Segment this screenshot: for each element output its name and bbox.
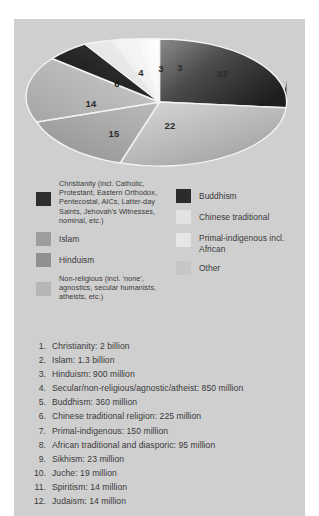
list-item-text: Spiritism: 14 million [52,480,300,494]
legend-swatch-hinduism [36,253,51,267]
list-item-text: Christianity: 2 billion [52,339,300,353]
list-item-text: Secular/non-religious/agnostic/atheist: … [52,381,300,395]
legend-label-other: Other [199,261,220,274]
legend-item-primal-indigenous[interactable]: Primal-indigenous incl. African [176,231,301,254]
list-item: 5. Buddhism: 360 million [30,395,300,409]
legend-swatch-non-religious [36,282,51,296]
pie-chart-svg [22,25,297,171]
list-item-text: Hinduism: 900 million [52,367,300,381]
legend-column-left: Christianity (incl. Catholic, Protestant… [36,179,166,309]
list-item: 10. Juche: 19 million [30,466,300,480]
legend-swatch-chinese-traditional [176,210,191,224]
pie-chart-stage: 33 22 15 14 6 4 3 3 [22,25,297,171]
list-item-text: Judaism: 14 million [52,494,300,508]
list-item: 2. Islam: 1.3 billion [30,353,300,367]
legend-swatch-other [176,261,191,275]
pie-label-3-other: 3 [177,62,182,73]
list-item-text: African traditional and diasporic: 95 mi… [52,438,300,452]
pie-label-4: 4 [138,67,143,78]
ranked-religion-list: 1. Christianity: 2 billion 2. Islam: 1.3… [30,339,300,508]
legend-item-chinese-traditional[interactable]: Chinese traditional [176,210,301,224]
pie-label-6: 6 [114,78,119,89]
list-item-number: 8. [30,438,46,452]
list-item-text: Sikhism: 23 million [52,452,300,466]
list-item-number: 6. [30,409,46,423]
legend-label-chinese-traditional: Chinese traditional [199,210,269,223]
list-item: 3. Hinduism: 900 million [30,367,300,381]
legend-item-christianity[interactable]: Christianity (incl. Catholic, Protestant… [36,179,166,225]
legend-item-non-religious[interactable]: Non-religious (incl. 'none', agnostics, … [36,274,166,302]
list-item-text: Islam: 1.3 billion [52,353,300,367]
legend-label-buddhism: Buddhism [199,189,237,202]
legend-swatch-buddhism [176,189,191,203]
legend-label-christianity: Christianity (incl. Catholic, Protestant… [59,179,166,225]
legend-item-hinduism[interactable]: Hinduism [36,253,166,267]
list-item-number: 12. [30,494,46,508]
legend-item-buddhism[interactable]: Buddhism [176,189,301,203]
pie-label-14: 14 [86,98,97,109]
list-item: 9. Sikhism: 23 million [30,452,300,466]
chart-legend: Christianity (incl. Catholic, Protestant… [14,171,305,329]
list-item-number: 10. [30,466,46,480]
list-item-number: 1. [30,339,46,353]
pie-label-15: 15 [109,128,120,139]
pie-chart: 33 22 15 14 6 4 3 3 [14,19,305,171]
list-item: 1. Christianity: 2 billion [30,339,300,353]
list-item-number: 2. [30,353,46,367]
list-item: 11. Spiritism: 14 million [30,480,300,494]
legend-item-islam[interactable]: Islam [36,232,166,246]
legend-label-hinduism: Hinduism [59,253,94,266]
list-item-number: 3. [30,367,46,381]
pie-label-33: 33 [217,68,228,79]
list-item-number: 5. [30,395,46,409]
figure-panel: 33 22 15 14 6 4 3 3 Christianity (incl. … [14,19,305,516]
legend-item-other[interactable]: Other [176,261,301,275]
list-item: 8. African traditional and diasporic: 95… [30,438,300,452]
legend-swatch-christianity [36,192,51,206]
list-item-number: 9. [30,452,46,466]
list-item-number: 7. [30,424,46,438]
list-item: 12. Judaism: 14 million [30,494,300,508]
list-item-text: Chinese traditional religion: 225 millio… [52,409,300,423]
list-item-number: 11. [30,480,46,494]
legend-label-islam: Islam [59,232,79,245]
list-item: 6. Chinese traditional religion: 225 mil… [30,409,300,423]
list-item: 7. Primal-indigenous: 150 million [30,424,300,438]
legend-label-primal-indigenous: Primal-indigenous incl. African [199,231,301,254]
pie-label-3-primal: 3 [158,63,163,74]
legend-label-non-religious: Non-religious (incl. 'none', agnostics, … [59,274,166,302]
pie-top-face [26,39,287,166]
list-item-text: Juche: 19 million [52,466,300,480]
legend-swatch-primal-indigenous [176,233,191,247]
legend-swatch-islam [36,232,51,246]
pie-label-22: 22 [165,120,176,131]
list-item-text: Primal-indigenous: 150 million [52,424,300,438]
list-item-text: Buddhism: 360 million [52,395,300,409]
list-item-number: 4. [30,381,46,395]
list-item: 4. Secular/non-religious/agnostic/atheis… [30,381,300,395]
legend-column-right: Buddhism Chinese traditional Primal-indi… [176,189,301,282]
